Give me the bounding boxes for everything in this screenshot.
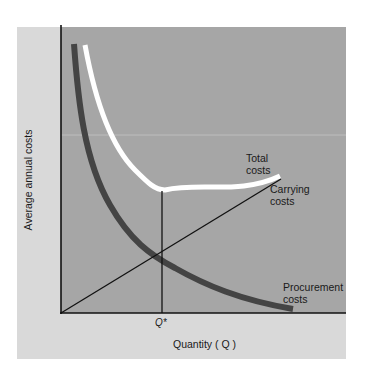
procurement-label-line1: Procurement <box>283 281 343 293</box>
total-label-line2: costs <box>246 164 271 176</box>
total-label-line1: Total <box>246 152 271 164</box>
carrying-label-line2: costs <box>270 195 310 207</box>
procurement-label-line2: costs <box>283 293 343 305</box>
chart-svg <box>0 0 365 379</box>
procurement-costs-label: Procurement costs <box>283 281 343 305</box>
qstar-label: Q* <box>155 317 167 329</box>
procurement-costs-curve <box>74 44 293 309</box>
carrying-costs-line <box>61 179 281 313</box>
x-axis-label: Quantity ( Q ) <box>173 338 236 350</box>
total-costs-label: Total costs <box>246 152 271 176</box>
carrying-costs-label: Carrying costs <box>270 183 310 207</box>
y-axis-label: Average annual costs <box>22 130 34 231</box>
carrying-label-line1: Carrying <box>270 183 310 195</box>
